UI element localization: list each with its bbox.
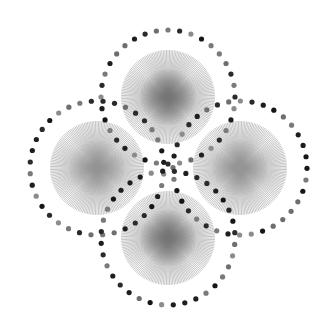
burst-left <box>50 121 144 215</box>
burst-top <box>121 50 215 144</box>
radial-burst-group <box>50 50 287 285</box>
burst-bottom <box>121 191 215 285</box>
burst-right <box>193 121 287 215</box>
radial-dot-pattern <box>0 0 330 330</box>
